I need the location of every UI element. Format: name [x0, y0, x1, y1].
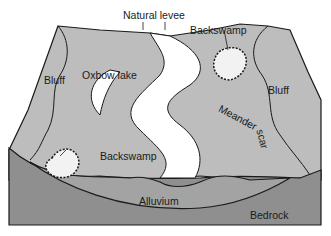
label-alluvium: Alluvium — [139, 196, 179, 207]
floodplain-diagram: Natural levee Backswamp Bluff Oxbow lake… — [0, 0, 331, 236]
label-natural-levee: Natural levee — [123, 10, 185, 21]
label-backswamp-bottom: Backswamp — [100, 151, 157, 162]
label-bluff-right: Bluff — [268, 85, 289, 96]
label-backswamp-top: Backswamp — [190, 25, 247, 36]
label-bluff-left: Bluff — [44, 75, 65, 86]
label-oxbow-lake: Oxbow lake — [82, 70, 137, 81]
label-bedrock: Bedrock — [250, 210, 289, 221]
